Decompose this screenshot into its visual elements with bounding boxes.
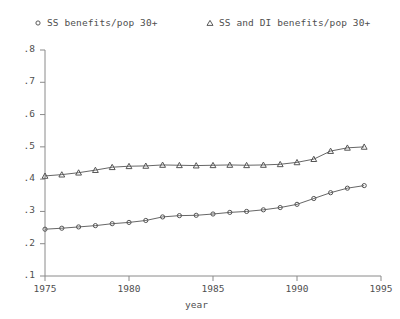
x-axis-tick-label: 1980 (109, 283, 149, 294)
y-axis-tick-label: .6 (9, 108, 35, 119)
series-ss-di-benefits (42, 144, 367, 178)
x-axis-tick-label: 1985 (193, 283, 233, 294)
x-axis-tick-label: 1995 (361, 283, 400, 294)
series-ss-benefits (43, 184, 366, 232)
y-axis-tick-label: .5 (9, 140, 35, 151)
y-axis-tick-label: .7 (9, 75, 35, 86)
plot-canvas (0, 0, 400, 319)
y-axis-tick-label: .8 (9, 43, 35, 54)
x-axis-title: year (185, 299, 208, 310)
series-line (45, 186, 364, 230)
x-axis-tick-label: 1990 (277, 283, 317, 294)
y-axis-tick-label: .3 (9, 204, 35, 215)
y-axis-tick-label: .1 (9, 269, 35, 280)
y-axis-tick-label: .2 (9, 237, 35, 248)
chart-figure: SS benefits/pop 30+ SS and DI benefits/p… (0, 0, 400, 319)
x-axis-tick-label: 1975 (25, 283, 65, 294)
y-axis-tick-label: .4 (9, 172, 35, 183)
